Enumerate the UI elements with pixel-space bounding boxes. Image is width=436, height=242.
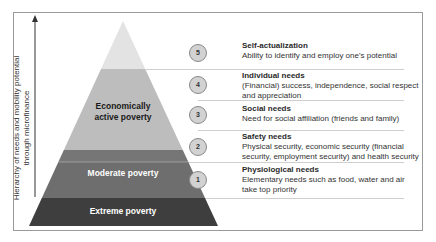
pyramid-band-dark-strip [58, 150, 188, 162]
axis-label: Hierarchy of needs and mobility potentia… [12, 28, 32, 228]
band-label-line1: Economically [73, 101, 173, 112]
level-badge-1: 1 [189, 171, 207, 189]
pyramid-band-top [101, 21, 145, 69]
level-4: Individual needs (Financial) success, in… [242, 71, 422, 101]
level-desc: (Financial) success, independence, socia… [242, 81, 422, 101]
level-desc: Need for social affiliation (friends and… [242, 114, 422, 124]
band-label-economically-active: Economically active poverty [73, 101, 173, 123]
band-label-extreme: Extreme poverty [58, 206, 188, 217]
level-title: Safety needs [242, 132, 422, 142]
level-2: Safety needs Physical security, economic… [242, 132, 422, 162]
level-1: Physiological needs Elementary needs suc… [242, 165, 422, 195]
level-title: Self-actualization [242, 41, 422, 51]
level-badge-4: 4 [189, 76, 207, 94]
level-title: Individual needs [242, 71, 422, 81]
level-title: Physiological needs [242, 165, 422, 175]
axis-label-line2: through microfinance [22, 28, 32, 228]
level-desc: Ability to identify and employ one's pot… [242, 51, 422, 61]
level-title: Social needs [242, 104, 422, 114]
level-badge-5: 5 [189, 44, 207, 62]
level-3: Social needs Need for social affiliation… [242, 104, 422, 124]
level-badge-2: 2 [189, 138, 207, 156]
band-label-line2: active poverty [73, 112, 173, 123]
band-label-moderate: Moderate poverty [58, 168, 188, 179]
level-badge-3: 3 [189, 106, 207, 124]
level-desc: Elementary needs such as food, water and… [242, 175, 422, 195]
level-desc: Physical security, economic security (fi… [242, 142, 422, 162]
axis-label-line1: Hierarchy of needs and mobility potentia… [12, 28, 22, 228]
level-5: Self-actualization Ability to identify a… [242, 41, 422, 61]
arrow-head-icon [32, 15, 38, 22]
